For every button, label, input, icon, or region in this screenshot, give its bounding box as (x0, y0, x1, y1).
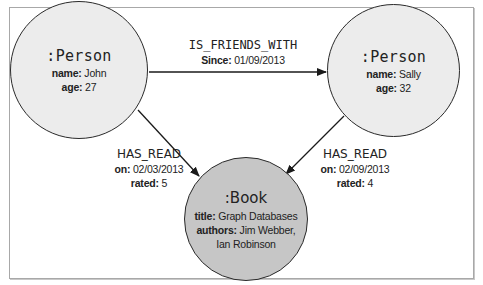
node-person-john: :Person name: John age: 27 (10, 1, 148, 139)
rel-label-john-has-read: HAS_READ on: 02/03/2013 rated: 5 (104, 146, 194, 190)
node-property-authors: authors: Jim Webber, (196, 223, 295, 237)
rel-label-sally-has-read: HAS_READ on: 02/09/2013 rated: 4 (310, 146, 400, 190)
rel-property-on: on: 02/09/2013 (310, 162, 400, 176)
node-property-name: name: Sally (366, 67, 420, 81)
rel-property-on: on: 02/03/2013 (104, 162, 194, 176)
rel-type: HAS_READ (310, 146, 400, 162)
rel-type: HAS_READ (104, 146, 194, 162)
node-label: :Book (225, 188, 267, 208)
node-property-age: age: 27 (62, 80, 97, 94)
rel-property-since: Since: 01/09/2013 (178, 53, 308, 67)
node-label: :Person (46, 46, 111, 66)
node-property-title: title: Graph Databases (195, 209, 298, 223)
rel-type: IS_FRIENDS_WITH (178, 37, 308, 53)
rel-property-rated: rated: 5 (104, 176, 194, 190)
node-person-sally: :Person name: Sally age: 32 (327, 4, 460, 137)
node-label: :Person (361, 47, 426, 67)
rel-label-is-friends-with: IS_FRIENDS_WITH Since: 01/09/2013 (178, 37, 308, 67)
rel-property-rated: rated: 4 (310, 176, 400, 190)
node-property-authors-cont: Ian Robinson (216, 237, 275, 251)
node-property-age: age: 32 (376, 81, 411, 95)
node-property-name: name: John (52, 66, 107, 80)
node-book: :Book title: Graph Databases authors: Ji… (184, 157, 308, 281)
